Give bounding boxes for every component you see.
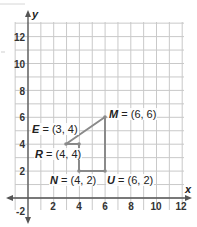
vertex-r xyxy=(77,142,81,146)
label-point-m: M = (6, 6) xyxy=(108,108,157,120)
x-tick-label: 8 xyxy=(128,201,134,212)
point-name: E xyxy=(32,123,39,135)
y-tick-label: 6 xyxy=(19,112,25,123)
vertex-m xyxy=(103,115,107,119)
x-axis xyxy=(6,195,192,201)
y-tick-label: 10 xyxy=(14,59,26,70)
x-axis-name: x xyxy=(184,183,192,195)
y-tick-label: -2 xyxy=(16,206,25,217)
point-coords: = (4, 2) xyxy=(61,174,96,186)
point-name: R xyxy=(35,148,43,160)
vertex-n xyxy=(77,169,81,173)
x-tick-label: 12 xyxy=(175,201,187,212)
point-coords: = (6, 6) xyxy=(121,108,156,120)
point-coords: = (3, 4) xyxy=(42,123,77,135)
y-axis-name: y xyxy=(31,8,39,20)
label-point-e: E = (3, 4) xyxy=(31,123,79,135)
x-tick-label: 10 xyxy=(150,201,162,212)
x-tick-label: 4 xyxy=(76,201,82,212)
y-tick-label: 12 xyxy=(14,32,26,43)
y-axis-arrow-up-icon xyxy=(25,10,31,17)
x-tick-label: 6 xyxy=(102,201,108,212)
y-tick-label: 4 xyxy=(19,139,25,150)
label-point-r: R = (4, 4) xyxy=(34,148,82,160)
label-point-u: U = (6, 2) xyxy=(106,174,154,186)
grid-lines xyxy=(15,22,184,210)
coordinate-plane: y x 12 10 8 6 4 2 -2 2 4 6 8 10 12 xyxy=(0,0,197,227)
point-name: U xyxy=(107,174,115,186)
x-axis-arrow-left-icon xyxy=(6,195,13,201)
point-coords: = (6, 2) xyxy=(118,174,153,186)
vertex-u xyxy=(103,169,107,173)
label-point-n: N = (4, 2) xyxy=(49,174,97,186)
y-tick-label: 8 xyxy=(19,86,25,97)
x-tick-label: 2 xyxy=(50,201,56,212)
x-tick-labels: 2 4 6 8 10 12 xyxy=(50,201,187,212)
y-axis-arrow-down-icon xyxy=(25,217,31,224)
y-tick-label: 2 xyxy=(19,166,25,177)
point-coords: = (4, 4) xyxy=(46,148,81,160)
point-name: N xyxy=(50,174,58,186)
vertex-e xyxy=(64,142,68,146)
point-name: M xyxy=(109,108,118,120)
